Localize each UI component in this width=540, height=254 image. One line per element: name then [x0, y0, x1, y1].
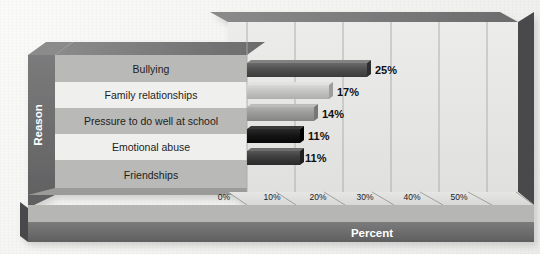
data-label-3: 14%: [322, 108, 344, 120]
bar-chart-svg: Bullying Family relationships Pressure t…: [0, 0, 540, 254]
x-tick-label-40: 40%: [403, 192, 420, 202]
category-label-3: Pressure to do well at school: [84, 115, 218, 127]
data-label-2: 17%: [337, 86, 359, 98]
bar-side-face-1: [367, 60, 371, 77]
category-label-1: Bullying: [133, 63, 170, 75]
bar-side-face-5: [300, 148, 304, 165]
data-label-4: 11%: [308, 130, 330, 142]
bar-front-face-2: [247, 85, 329, 99]
x-tick-label-10: 10%: [263, 192, 280, 202]
bar-bullying[interactable]: [247, 60, 371, 77]
bar-side-face-4: [300, 126, 304, 143]
bar-family-relationships[interactable]: [247, 82, 333, 99]
x-tick-label-30: 30%: [356, 192, 373, 202]
bar-top-face-1: [247, 60, 371, 63]
label-panel-top-bevel: [55, 42, 265, 55]
category-label-5: Friendships: [124, 169, 178, 181]
bar-front-face-4: [247, 129, 300, 143]
bar-friendships[interactable]: [247, 148, 304, 165]
bar-pressure-to-do-well-at-school[interactable]: [247, 104, 318, 121]
back-wall-top-bevel: [210, 12, 518, 22]
bar-side-face-2: [329, 82, 333, 99]
chart-figure: Bullying Family relationships Pressure t…: [0, 0, 540, 254]
data-label-5: 11%: [305, 152, 327, 164]
category-label-2: Family relationships: [105, 89, 198, 101]
base-left-edge: [20, 202, 28, 242]
x-tick-label-50: 50%: [450, 192, 467, 202]
x-axis-tick-strip: [28, 205, 534, 222]
x-tick-label-20: 20%: [309, 192, 326, 202]
base-slab: [28, 222, 534, 242]
x-tick-label-0: 0%: [218, 192, 231, 202]
bar-top-face-2: [247, 82, 333, 85]
data-label-1: 25%: [375, 64, 397, 76]
y-axis-title: Reason: [32, 104, 44, 146]
bar-top-face-4: [247, 126, 304, 129]
bar-front-face-3: [247, 107, 314, 121]
bar-top-face-5: [247, 148, 304, 151]
right-wall-face: [518, 12, 534, 205]
bar-front-face-1: [247, 63, 367, 77]
x-axis-title: Percent: [351, 227, 393, 239]
category-label-4: Emotional abuse: [112, 141, 190, 153]
bar-side-face-3: [314, 104, 318, 121]
label-panel-skirt: [28, 188, 247, 195]
bar-emotional-abuse[interactable]: [247, 126, 304, 143]
bar-top-face-3: [247, 104, 318, 107]
bar-front-face-5: [247, 151, 300, 165]
